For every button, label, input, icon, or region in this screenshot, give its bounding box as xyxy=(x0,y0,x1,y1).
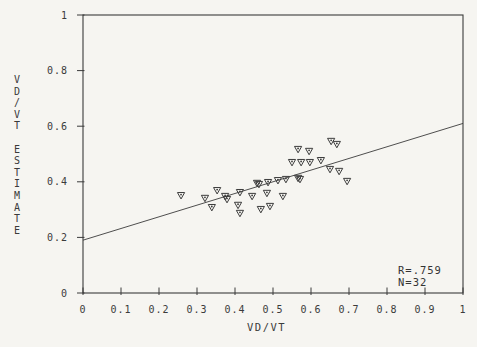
triangle-down-marker-icon xyxy=(257,206,264,212)
marker-center-dot xyxy=(239,191,241,193)
marker-center-dot xyxy=(285,178,287,180)
x-tick-label: 0.3 xyxy=(186,304,207,315)
marker-center-dot xyxy=(269,204,271,206)
scatter-point xyxy=(306,159,313,165)
y-axis-title: V D / V T E S T I M A T E xyxy=(10,74,24,236)
marker-center-dot xyxy=(226,198,228,200)
x-tick-label: 1 xyxy=(459,304,466,315)
triangle-down-marker-icon xyxy=(306,148,313,154)
marker-center-dot xyxy=(267,181,269,183)
marker-center-dot xyxy=(300,161,302,163)
triangle-down-marker-icon xyxy=(279,193,286,199)
marker-center-dot xyxy=(336,142,338,144)
trend-line xyxy=(83,123,463,240)
y-tick-label: 0.6 xyxy=(47,121,68,132)
triangle-down-marker-icon xyxy=(298,159,305,165)
scatter-point xyxy=(288,159,295,165)
scatter-point xyxy=(317,158,324,164)
scatter-point xyxy=(344,178,351,184)
x-tick-label: 0.6 xyxy=(300,304,321,315)
scatter-point xyxy=(249,193,256,199)
marker-center-dot xyxy=(346,179,348,181)
scatter-point xyxy=(236,210,243,216)
x-tick-label: 0.8 xyxy=(376,304,397,315)
x-tick-label: 0.4 xyxy=(224,304,245,315)
scatter-plot-figure: 00.10.20.30.40.50.60.70.80.9100.20.40.60… xyxy=(0,0,477,347)
marker-center-dot xyxy=(338,169,340,171)
triangle-down-marker-icon xyxy=(336,168,343,174)
triangle-down-marker-icon xyxy=(326,166,333,172)
scatter-point xyxy=(326,166,333,172)
scatter-point xyxy=(306,148,313,154)
chart-canvas: 00.10.20.30.40.50.60.70.80.9100.20.40.60… xyxy=(0,0,477,347)
scatter-point xyxy=(333,141,340,147)
n-value-annotation: N=32 xyxy=(398,276,427,288)
marker-center-dot xyxy=(260,208,262,210)
triangle-down-marker-icon xyxy=(288,159,295,165)
marker-center-dot xyxy=(320,159,322,161)
marker-center-dot xyxy=(282,194,284,196)
triangle-down-marker-icon xyxy=(266,203,273,209)
triangle-down-marker-icon xyxy=(344,178,351,184)
scatter-point xyxy=(294,146,301,152)
scatter-point xyxy=(257,206,264,212)
scatter-point xyxy=(266,203,273,209)
triangle-down-marker-icon xyxy=(236,210,243,216)
y-tick-label: 0.4 xyxy=(47,176,68,187)
triangle-down-marker-icon xyxy=(306,159,313,165)
marker-center-dot xyxy=(309,161,311,163)
x-tick-label: 0.5 xyxy=(262,304,283,315)
triangle-down-marker-icon xyxy=(208,204,215,210)
scatter-point xyxy=(214,188,221,194)
triangle-down-marker-icon xyxy=(249,193,256,199)
triangle-down-marker-icon xyxy=(177,193,184,199)
marker-center-dot xyxy=(239,211,241,213)
triangle-down-marker-icon xyxy=(317,158,324,164)
triangle-down-marker-icon xyxy=(333,141,340,147)
r-value-annotation: R=.759 xyxy=(398,264,442,276)
marker-center-dot xyxy=(291,161,293,163)
scatter-point xyxy=(201,195,208,201)
x-tick-label: 0 xyxy=(79,304,86,315)
triangle-down-marker-icon xyxy=(234,202,241,208)
y-tick-label: 0.8 xyxy=(47,65,68,76)
scatter-point xyxy=(177,193,184,199)
scatter-point xyxy=(263,190,270,196)
triangle-down-marker-icon xyxy=(294,146,301,152)
triangle-down-marker-icon xyxy=(201,195,208,201)
marker-center-dot xyxy=(211,206,213,208)
marker-center-dot xyxy=(237,203,239,205)
marker-center-dot xyxy=(329,168,331,170)
marker-center-dot xyxy=(251,194,253,196)
marker-center-dot xyxy=(308,149,310,151)
x-tick-label: 0.1 xyxy=(110,304,131,315)
marker-center-dot xyxy=(258,183,260,185)
y-tick-label: 1 xyxy=(61,10,68,21)
scatter-point xyxy=(336,168,343,174)
marker-center-dot xyxy=(297,147,299,149)
marker-center-dot xyxy=(180,194,182,196)
x-tick-label: 0.7 xyxy=(338,304,359,315)
x-tick-label: 0.9 xyxy=(414,304,435,315)
marker-center-dot xyxy=(299,178,301,180)
marker-center-dot xyxy=(216,189,218,191)
y-tick-label: 0 xyxy=(61,288,68,299)
marker-center-dot xyxy=(330,139,332,141)
plot-frame xyxy=(83,15,463,293)
triangle-down-marker-icon xyxy=(263,190,270,196)
x-axis-title: VD/VT xyxy=(247,321,286,333)
scatter-point xyxy=(279,193,286,199)
x-tick-label: 0.2 xyxy=(148,304,169,315)
marker-center-dot xyxy=(277,179,279,181)
marker-center-dot xyxy=(204,196,206,198)
y-tick-label: 0.2 xyxy=(47,232,68,243)
scatter-point xyxy=(234,202,241,208)
triangle-down-marker-icon xyxy=(214,188,221,194)
scatter-point xyxy=(208,204,215,210)
marker-center-dot xyxy=(266,191,268,193)
scatter-point xyxy=(298,159,305,165)
